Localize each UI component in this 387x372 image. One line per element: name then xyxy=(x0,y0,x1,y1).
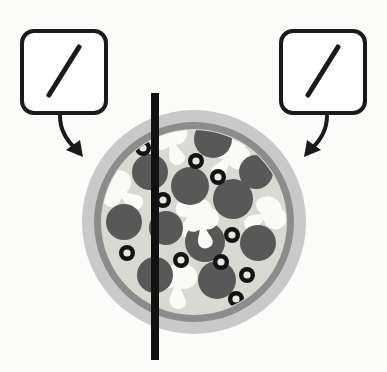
olive xyxy=(210,169,226,185)
pepperoni xyxy=(132,154,168,190)
figure-canvas: Pizza divided by a vertical line with tw… xyxy=(0,0,387,372)
pepperoni xyxy=(240,225,276,261)
pepperoni xyxy=(106,204,142,240)
left-callout[interactable] xyxy=(22,31,106,157)
olive xyxy=(173,252,189,268)
olive xyxy=(119,245,135,261)
pepperoni xyxy=(213,179,253,219)
olive xyxy=(188,153,204,169)
olive xyxy=(224,227,240,243)
pizza xyxy=(82,110,306,334)
olive xyxy=(213,254,229,270)
olive xyxy=(239,267,255,283)
pepperoni xyxy=(171,167,209,205)
pizza-diagram xyxy=(0,0,387,372)
right-callout[interactable] xyxy=(281,31,365,157)
